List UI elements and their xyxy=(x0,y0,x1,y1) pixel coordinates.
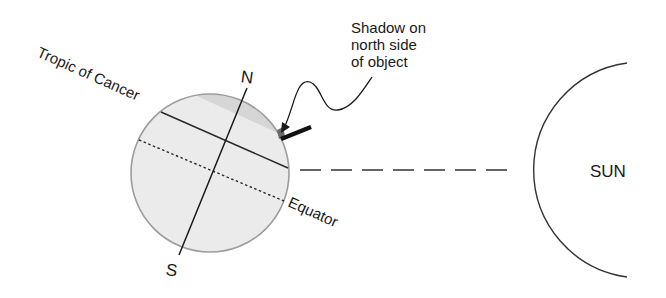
diagram-canvas: N S Tropic of Cancer Equator Shadow on n… xyxy=(0,0,666,298)
sun-label: SUN xyxy=(590,162,626,181)
tropic-of-cancer-label: Tropic of Cancer xyxy=(35,43,143,103)
north-label: N xyxy=(240,67,255,88)
earth xyxy=(100,52,320,255)
callout-line-1: Shadow on xyxy=(351,19,426,36)
south-label: S xyxy=(165,260,179,280)
callout-line-3: of object xyxy=(351,53,409,70)
equator-label: Equator xyxy=(286,193,341,230)
callout-text: Shadow on north side of object xyxy=(351,19,430,70)
callout-arrow xyxy=(281,77,372,133)
squiggle-leader-line xyxy=(284,77,372,128)
callout-line-2: north side xyxy=(351,36,417,53)
